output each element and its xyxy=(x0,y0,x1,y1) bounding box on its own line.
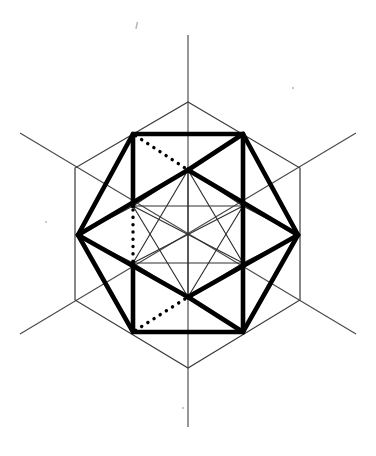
figure-canvas xyxy=(0,0,376,456)
paper-speck-left xyxy=(45,221,47,223)
geometric-projection-diagram xyxy=(0,0,376,456)
paper-speck-right xyxy=(292,87,294,89)
paper-speck-bottom xyxy=(182,407,184,409)
